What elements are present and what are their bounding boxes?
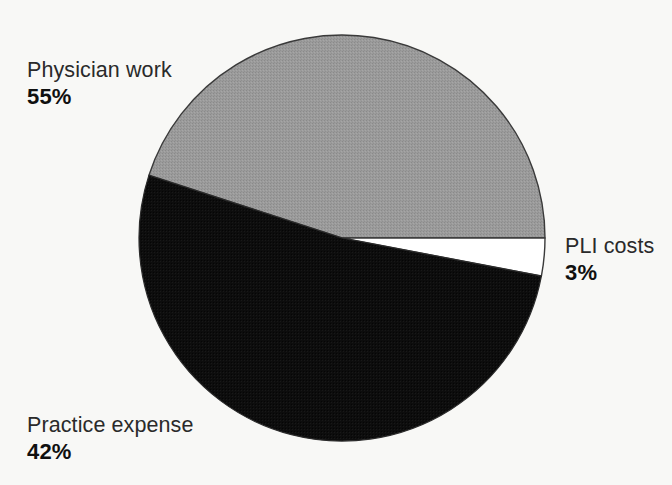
pie-label-physician-work-name: Physician work [27,58,172,82]
pie-label-practice-expense: Practice expense 42% [27,413,194,465]
pie-chart-figure: Physician work 55% PLI costs 3% Practice… [0,0,672,485]
pie-label-pli-costs-name: PLI costs [565,234,654,258]
pie-label-practice-expense-value: 42% [27,440,194,465]
pie-label-pli-costs-value: 3% [565,261,654,286]
pie-label-physician-work: Physician work 55% [27,58,172,110]
pie-label-pli-costs: PLI costs 3% [565,234,654,286]
pie-slices [139,35,545,441]
pie-label-physician-work-value: 55% [27,85,172,110]
pie-label-practice-expense-name: Practice expense [27,413,194,437]
